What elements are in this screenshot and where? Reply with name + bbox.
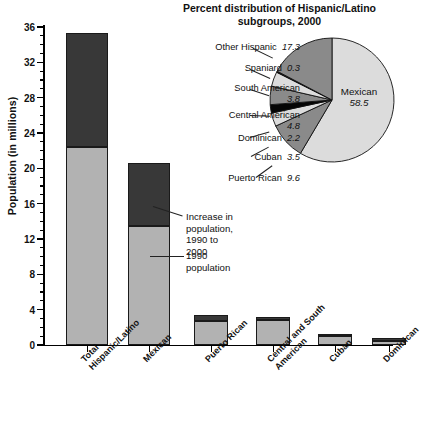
pie-callout-value: 9.6 — [287, 173, 300, 183]
y-axis-minor-tick — [40, 177, 44, 178]
y-axis-tick — [37, 26, 44, 27]
y-axis-minor-tick — [40, 159, 44, 160]
y-axis-minor-tick — [40, 327, 44, 328]
y-axis-tick-label: 0 — [29, 340, 35, 351]
y-axis-tick — [37, 274, 44, 275]
y-axis-minor-tick — [40, 283, 44, 284]
y-axis-tick-label: 16 — [24, 198, 35, 209]
y-axis-minor-tick — [40, 150, 44, 151]
pie-callout-name: Spaniard — [245, 63, 282, 73]
pie-chart-panel: Percent distribution of Hispanic/Latino … — [150, 0, 399, 200]
y-axis-title: Population (in millions) — [6, 86, 18, 226]
y-axis-minor-tick — [40, 79, 44, 80]
y-axis-minor-tick — [40, 124, 44, 125]
pie-callout-value: 17.3 — [282, 42, 300, 52]
y-axis-tick-label: 12 — [24, 234, 35, 245]
y-axis-minor-tick — [40, 71, 44, 72]
y-axis-minor-tick — [40, 230, 44, 231]
pie-callout-value: 0.3 — [287, 63, 300, 73]
pie-slice-value-mexican: 58.5 — [349, 97, 368, 108]
pie-callout-spaniard: Spaniard 0.3 — [150, 63, 300, 74]
annotation-increase-line1: Increase in population, — [186, 211, 233, 234]
pie-callout-value: 3.5 — [287, 152, 300, 162]
y-axis-minor-tick — [40, 256, 44, 257]
y-axis-tick-label: 4 — [29, 304, 35, 315]
pie-slice-name-mexican: Mexican — [341, 86, 377, 97]
pie-chart-title: Percent distribution of Hispanic/Latino … — [160, 2, 399, 27]
y-axis-minor-tick — [40, 141, 44, 142]
y-axis-tick — [37, 309, 44, 310]
pie-callout-other-hispanic: Other Hispanic 17.3 — [150, 42, 300, 53]
y-axis-tick — [37, 238, 44, 239]
pie-callout-name: South American — [234, 83, 300, 93]
y-axis-minor-tick — [40, 53, 44, 54]
pie-slice-label-mexican: Mexican 58.5 — [328, 86, 390, 108]
y-axis-minor-tick — [40, 221, 44, 222]
pie-callout-south-american: South American3.8 — [150, 83, 300, 104]
bar-segment-increase — [66, 33, 108, 147]
y-axis-tick — [37, 62, 44, 63]
bar-total-hispanic/latino — [66, 33, 108, 345]
pie-callout-cuban: Cuban 3.5 — [150, 152, 300, 163]
y-axis-minor-tick — [40, 265, 44, 266]
pie-callout-puerto-rican: Puerto Rican 9.6 — [150, 173, 300, 184]
y-axis-tick-label: 36 — [24, 22, 35, 33]
pie-title-line2: subgroups, 2000 — [238, 15, 321, 27]
pie-callout-name: Other Hispanic — [215, 42, 277, 52]
pie-callout-name: Cuban — [254, 152, 281, 162]
y-axis-tick-label: 24 — [24, 128, 35, 139]
y-axis-minor-tick — [40, 291, 44, 292]
y-axis-tick — [37, 344, 44, 345]
y-axis-minor-tick — [40, 247, 44, 248]
y-axis-minor-tick — [40, 44, 44, 45]
pie-callout-central-american: Central American4.8 — [150, 110, 300, 131]
pie-callout-dominican: Dominican 2.2 — [150, 133, 300, 144]
y-axis-tick-label: 28 — [24, 92, 35, 103]
pie-title-line1: Percent distribution of Hispanic/Latino — [183, 2, 376, 14]
y-axis-tick-label: 8 — [29, 269, 35, 280]
y-axis-tick-label: 20 — [24, 163, 35, 174]
bar-segment-increase — [318, 334, 352, 336]
annotation-1990-population: 1990 population — [186, 250, 230, 273]
bar-segment-1990-population — [66, 147, 108, 345]
y-axis-minor-tick — [40, 185, 44, 186]
y-axis-minor-tick — [40, 300, 44, 301]
y-axis-minor-tick — [40, 212, 44, 213]
y-axis-tick — [37, 168, 44, 169]
y-axis-tick — [37, 203, 44, 204]
y-axis-tick — [37, 97, 44, 98]
y-axis-minor-tick — [40, 106, 44, 107]
y-axis-minor-tick — [40, 115, 44, 116]
y-axis-tick — [37, 132, 44, 133]
bar-segment-increase — [194, 315, 228, 321]
bar-segment-increase — [256, 317, 290, 321]
pie-callout-value: 4.8 — [287, 121, 300, 131]
y-axis-tick-label: 32 — [24, 57, 35, 68]
leader-line-1990 — [150, 256, 184, 257]
pie-callout-name: Puerto Rican — [228, 173, 282, 183]
y-axis-minor-tick — [40, 35, 44, 36]
y-axis-minor-tick — [40, 318, 44, 319]
pie-callout-value: 3.8 — [287, 94, 300, 104]
y-axis-minor-tick — [40, 88, 44, 89]
y-axis-minor-tick — [40, 336, 44, 337]
y-axis-minor-tick — [40, 194, 44, 195]
pie-callout-value: 2.2 — [287, 133, 300, 143]
